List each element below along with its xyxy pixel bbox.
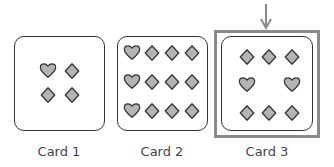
diamond-icon bbox=[238, 48, 256, 66]
card-2[interactable] bbox=[117, 36, 208, 131]
diamond-icon bbox=[63, 86, 81, 104]
diamond-icon bbox=[260, 104, 278, 122]
diamond-icon bbox=[39, 86, 57, 104]
heart-icon bbox=[123, 102, 141, 120]
heart-icon bbox=[123, 73, 141, 91]
down-arrow-icon bbox=[259, 4, 273, 30]
diamond-icon bbox=[143, 44, 161, 62]
diamond-icon bbox=[238, 104, 256, 122]
heart-icon bbox=[283, 76, 301, 94]
card-1-label: Card 1 bbox=[19, 144, 99, 159]
card-1[interactable] bbox=[14, 36, 105, 131]
diamond-icon bbox=[63, 62, 81, 80]
diamond-icon bbox=[283, 48, 301, 66]
diamond-icon bbox=[283, 104, 301, 122]
diamond-icon bbox=[183, 73, 201, 91]
card-2-label: Card 2 bbox=[122, 144, 202, 159]
heart-icon bbox=[238, 76, 256, 94]
heart-icon bbox=[39, 62, 57, 80]
diamond-icon bbox=[143, 73, 161, 91]
diamond-icon bbox=[163, 73, 181, 91]
diamond-icon bbox=[163, 44, 181, 62]
heart-icon bbox=[123, 44, 141, 62]
card-3[interactable] bbox=[221, 36, 313, 131]
diamond-icon bbox=[163, 102, 181, 120]
diamond-icon bbox=[260, 48, 278, 66]
card-3-label: Card 3 bbox=[227, 144, 307, 159]
diamond-icon bbox=[143, 102, 161, 120]
diamond-icon bbox=[183, 44, 201, 62]
diamond-icon bbox=[183, 102, 201, 120]
